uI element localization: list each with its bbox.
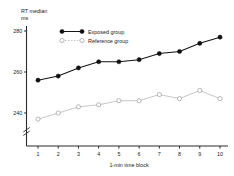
y-axis-title-line2: ms (21, 15, 28, 21)
x-tick-label: 3 (77, 151, 80, 157)
series-line-exposed-group (38, 37, 220, 80)
legend-label-exposed-group: Exposed group (88, 29, 124, 35)
legend-marker-reference-group (60, 38, 64, 42)
data-point-reference-group (36, 117, 40, 121)
data-point-reference-group (97, 103, 101, 107)
y-tick-label: 260 (13, 69, 22, 75)
legend-marker-reference-group (80, 38, 84, 42)
x-tick-label: 8 (178, 151, 181, 157)
x-tick-label: 5 (117, 151, 120, 157)
chart-container: 280260240RT medianms123456789101-min tim… (0, 0, 234, 176)
series-line-reference-group (38, 90, 220, 119)
data-point-exposed-group (157, 51, 161, 55)
x-tick-label: 2 (57, 151, 60, 157)
data-point-exposed-group (177, 49, 181, 53)
y-tick-label: 240 (13, 110, 22, 116)
data-point-exposed-group (137, 58, 141, 62)
x-axis-title: 1-min time block (109, 162, 149, 168)
y-tick-label: 280 (13, 28, 22, 34)
x-tick-label: 6 (138, 151, 141, 157)
x-tick-label: 9 (198, 151, 201, 157)
data-point-exposed-group (56, 74, 60, 78)
legend-label-reference-group: Reference group (88, 38, 128, 44)
legend-marker-exposed-group (80, 29, 84, 33)
y-axis-title-line1: RT median (21, 8, 47, 14)
x-tick-label: 4 (97, 151, 100, 157)
x-tick-label: 7 (158, 151, 161, 157)
data-point-reference-group (117, 99, 121, 103)
data-point-exposed-group (97, 60, 101, 64)
data-point-exposed-group (198, 41, 202, 45)
data-point-exposed-group (76, 66, 80, 70)
rt-median-line-chart: 280260240RT medianms123456789101-min tim… (0, 0, 234, 176)
data-point-reference-group (76, 105, 80, 109)
x-tick-label: 10 (217, 151, 223, 157)
data-point-reference-group (177, 97, 181, 101)
data-point-reference-group (137, 99, 141, 103)
x-tick-label: 1 (37, 151, 40, 157)
data-point-exposed-group (218, 35, 222, 39)
data-point-reference-group (198, 88, 202, 92)
data-point-reference-group (157, 92, 161, 96)
data-point-reference-group (218, 97, 222, 101)
legend-marker-exposed-group (60, 29, 64, 33)
data-point-reference-group (56, 111, 60, 115)
data-point-exposed-group (117, 60, 121, 64)
data-point-exposed-group (36, 78, 40, 82)
